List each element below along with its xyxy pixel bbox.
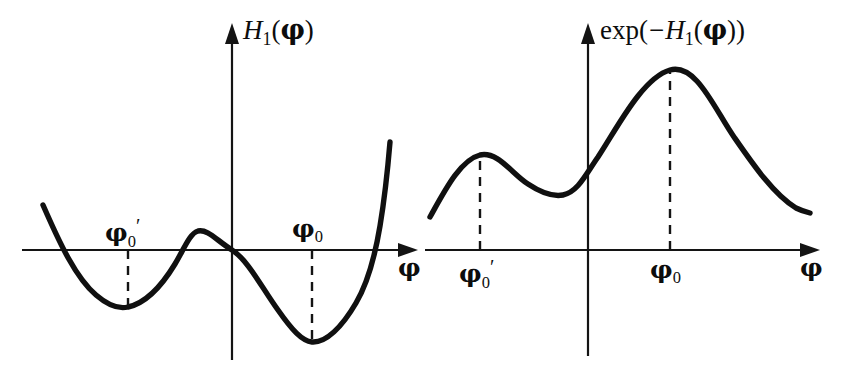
right-tick-phi-0-prime-mark: ′ xyxy=(490,256,494,278)
left-tick-label-phi-0-prime: φ0′ xyxy=(105,216,140,250)
right-y-axis-label-base: H xyxy=(665,15,685,45)
right-y-axis-label-arg: φ xyxy=(703,14,727,45)
left-tick-phi-0-prime-sub: 0 xyxy=(128,232,136,251)
left-tick-label-phi-0: φ0 xyxy=(292,216,323,246)
right-tick-phi-0-sub: 0 xyxy=(673,268,681,287)
right-tick-phi-0-base: φ xyxy=(650,255,673,284)
left-tick-phi-0-prime-mark: ′ xyxy=(136,215,140,237)
figure-canvas xyxy=(0,0,861,379)
left-y-axis-label: H1(φ) xyxy=(243,16,314,49)
right-y-axis-arrowhead xyxy=(581,23,595,44)
right-panel-graph xyxy=(425,23,820,356)
right-y-axis-label-prefix: exp xyxy=(600,15,639,45)
left-tick-phi-0-prime-base: φ xyxy=(105,218,128,247)
left-y-axis-arrowhead xyxy=(225,23,239,44)
right-y-axis-label: exp(−H1(φ)) xyxy=(600,16,745,49)
right-tick-phi-0-prime-base: φ xyxy=(459,259,482,288)
right-y-axis-label-close: ) xyxy=(736,15,745,45)
right-y-axis-label-sub: 1 xyxy=(685,29,694,49)
left-y-axis-label-close: ) xyxy=(305,15,314,45)
right-curve-expH1 xyxy=(430,69,810,217)
left-curve-H1 xyxy=(43,142,390,342)
right-y-axis-label-arg-close: ) xyxy=(727,15,736,45)
left-x-axis-label: φ xyxy=(398,255,421,280)
right-tick-label-phi-0-prime: φ0′ xyxy=(459,257,494,291)
right-x-axis-label: φ xyxy=(800,255,823,280)
left-tick-phi-0-base: φ xyxy=(292,214,315,243)
left-y-axis-label-base: H xyxy=(243,15,263,45)
right-tick-label-phi-0: φ0 xyxy=(650,257,681,287)
left-panel-graph xyxy=(22,23,418,360)
figure-container: H1(φ) φ0′ φ0 φ exp(−H1(φ)) φ0′ φ0 φ xyxy=(0,0,861,379)
left-y-axis-label-arg: φ xyxy=(280,14,304,45)
right-tick-phi-0-prime-sub: 0 xyxy=(482,273,490,292)
right-y-axis-label-open: ( xyxy=(639,15,648,45)
left-tick-phi-0-sub: 0 xyxy=(315,227,323,246)
right-y-axis-label-minus: − xyxy=(648,15,665,45)
right-y-axis-label-arg-open: ( xyxy=(694,15,703,45)
